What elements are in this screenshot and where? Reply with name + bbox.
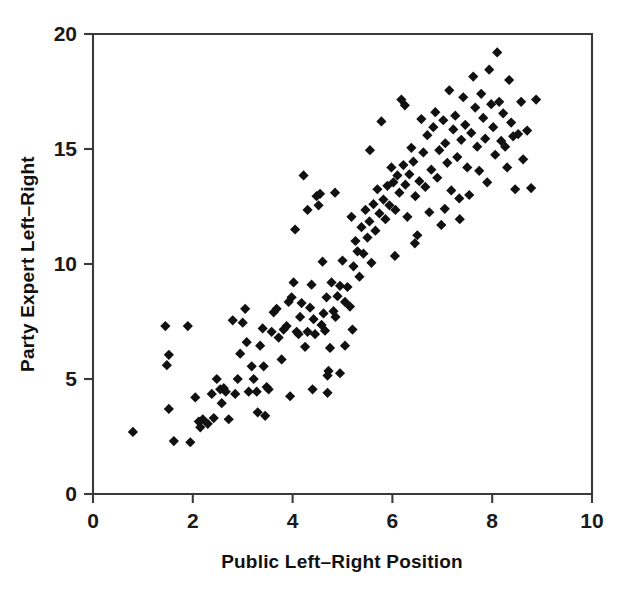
data-point: [364, 216, 374, 226]
data-point: [164, 404, 174, 414]
data-point: [302, 327, 312, 337]
data-point: [438, 115, 448, 125]
data-point: [506, 117, 516, 127]
data-point: [238, 318, 248, 328]
data-point: [307, 384, 317, 394]
data-point: [416, 114, 426, 124]
data-point: [428, 122, 438, 132]
data-point: [332, 291, 342, 301]
data-point: [472, 142, 482, 152]
data-point: [488, 122, 498, 132]
data-point: [482, 177, 492, 187]
data-point: [448, 124, 458, 134]
data-point: [300, 342, 310, 352]
data-point: [365, 145, 375, 155]
data-point: [410, 238, 420, 248]
data-point: [510, 184, 520, 194]
data-point: [402, 212, 412, 222]
data-point: [460, 120, 470, 130]
y-tick-label: 20: [54, 22, 77, 45]
data-point: [440, 138, 450, 148]
data-point: [217, 398, 227, 408]
data-point: [354, 272, 364, 282]
data-point: [235, 349, 245, 359]
y-tick-label: 0: [65, 482, 77, 505]
x-tick-label: 10: [580, 509, 603, 532]
data-point: [458, 92, 468, 102]
data-point: [498, 108, 508, 118]
data-point: [368, 199, 378, 209]
data-point: [310, 329, 320, 339]
data-point-group: [128, 47, 541, 447]
x-tick-label: 0: [87, 509, 99, 532]
x-tick-labels: 0246810: [87, 509, 604, 532]
data-point: [317, 257, 327, 267]
data-point: [494, 97, 504, 107]
data-point: [356, 222, 366, 232]
data-point: [347, 324, 357, 334]
data-point: [478, 113, 488, 123]
data-point: [462, 162, 472, 172]
data-point: [390, 251, 400, 261]
data-point: [325, 343, 335, 353]
data-point: [424, 207, 434, 217]
data-point: [207, 389, 217, 399]
data-point: [502, 162, 512, 172]
data-point: [410, 191, 420, 201]
data-point: [350, 236, 360, 246]
data-point: [430, 107, 440, 117]
data-point: [400, 180, 410, 190]
data-point: [169, 436, 179, 446]
data-point: [404, 169, 414, 179]
data-point: [296, 298, 306, 308]
x-tick-marks: [93, 494, 592, 503]
y-tick-label: 15: [54, 137, 78, 160]
data-point: [366, 258, 376, 268]
data-point: [247, 361, 257, 371]
data-point: [490, 150, 500, 160]
data-point: [337, 255, 347, 265]
data-point: [321, 292, 331, 302]
data-point: [322, 388, 332, 398]
data-point: [267, 327, 277, 337]
data-point: [456, 135, 466, 145]
data-point: [308, 314, 318, 324]
data-point: [464, 190, 474, 200]
data-point: [335, 368, 345, 378]
data-point: [376, 116, 386, 126]
y-axis-title: Party Expert Left–Right: [17, 156, 38, 372]
data-point: [302, 205, 312, 215]
y-tick-labels: 05101520: [54, 22, 78, 505]
data-point: [252, 387, 262, 397]
y-tick-label: 10: [54, 252, 77, 275]
data-point: [348, 261, 358, 271]
data-point: [305, 303, 315, 313]
scatter-plot-figure: 05101520 0246810 Public Left–Right Posit…: [0, 0, 628, 589]
data-point: [436, 220, 446, 230]
y-tick-label: 5: [65, 367, 77, 390]
data-point: [455, 214, 465, 224]
data-point: [518, 154, 528, 164]
x-tick-label: 4: [287, 509, 299, 532]
data-point: [340, 341, 350, 351]
data-point: [386, 162, 396, 172]
data-point: [277, 354, 287, 364]
data-point: [474, 166, 484, 176]
data-point: [432, 173, 442, 183]
data-point: [259, 361, 269, 371]
data-point: [440, 204, 450, 214]
data-point: [230, 389, 240, 399]
data-point: [406, 143, 416, 153]
data-point: [183, 321, 193, 331]
data-point: [240, 304, 250, 314]
data-point: [442, 158, 452, 168]
data-point: [242, 337, 252, 347]
data-point: [422, 130, 432, 140]
data-point: [249, 374, 259, 384]
data-point: [224, 414, 234, 424]
data-point: [476, 89, 486, 99]
x-axis-title: Public Left–Right Position: [221, 551, 463, 572]
data-point: [212, 374, 222, 384]
data-point: [295, 312, 305, 322]
data-point: [228, 315, 238, 325]
